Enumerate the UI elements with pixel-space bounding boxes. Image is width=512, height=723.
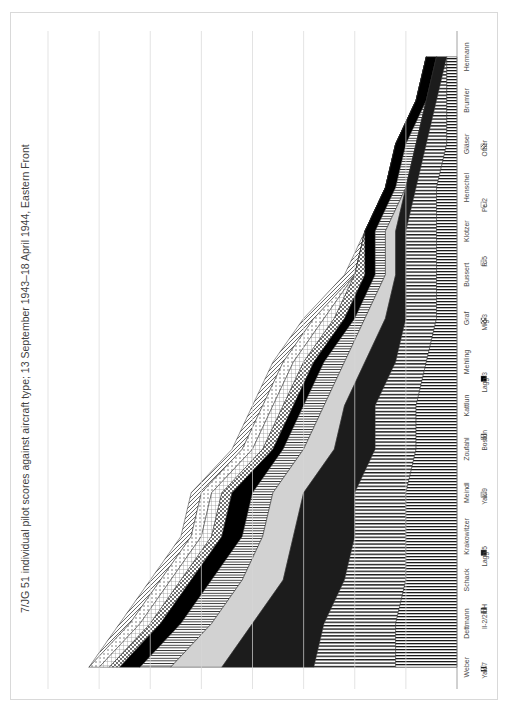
category-label: Brumler [463, 87, 470, 112]
category-label: Bussert [463, 263, 470, 287]
category-label: Hermann [463, 42, 470, 71]
legend-label: R-5 [481, 256, 488, 267]
category-label: Kattlun [463, 395, 470, 417]
category-label: Schack [463, 568, 470, 591]
legend-item[interactable]: Yak-7 [481, 662, 488, 679]
chart-frame: 0510152025303540 WeberDettmannSchackKrak… [10, 12, 498, 700]
category-label: Zoufahl [463, 437, 470, 461]
legend-label: Other [481, 139, 488, 156]
legend-label: Yak-7 [481, 662, 488, 679]
category-label: Klotzer [463, 220, 470, 242]
legend-label: Il-2/2mH [481, 604, 488, 629]
legend-item[interactable]: Lagg-3 [481, 372, 489, 393]
legend-item[interactable]: Lagg-5 [481, 546, 489, 567]
category-label: Weber [463, 656, 470, 677]
stacked-area-chart[interactable]: 0510152025303540 WeberDettmannSchackKrak… [11, 13, 497, 699]
legend-label: Pe-2 [481, 198, 488, 212]
legend-item[interactable]: Other [481, 139, 488, 156]
legend-item[interactable]: Yak-9 [481, 488, 488, 505]
category-label: Mehling [463, 350, 471, 375]
legend-label: Mig-3 [481, 314, 489, 331]
chart-title: 7/JG 51 individual pilot scores against … [19, 144, 31, 613]
category-label: Krakowitzer [463, 517, 470, 554]
legend-item[interactable]: R-5 [481, 256, 488, 267]
legend-item[interactable]: Mig-3 [481, 314, 489, 331]
legend-item[interactable]: Pe-2 [481, 198, 488, 212]
category-label: Meindl [463, 482, 470, 503]
chart-legend[interactable]: Yak-7Il-2/2mHLagg-5Yak-9BostonLagg-3Mig-… [481, 139, 489, 679]
plot-area [89, 57, 457, 667]
category-label: Gläser [463, 133, 470, 154]
legend-label: Boston [481, 430, 488, 451]
legend-label: Lagg-3 [481, 372, 489, 393]
legend-item[interactable]: Boston [481, 430, 488, 451]
legend-label: Yak-9 [481, 488, 488, 505]
legend-item[interactable]: Il-2/2mH [481, 604, 488, 629]
category-label: Henschel [463, 173, 470, 203]
legend-label: Lagg-5 [481, 546, 489, 567]
category-label: Graf [463, 312, 470, 326]
chart-page: 0510152025303540 WeberDettmannSchackKrak… [0, 0, 512, 723]
category-axis-labels: WeberDettmannSchackKrakowitzerMeindlZouf… [463, 42, 471, 677]
category-label: Dettmann [463, 608, 470, 638]
